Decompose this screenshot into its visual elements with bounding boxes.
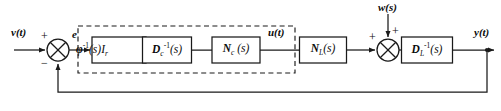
feedback-tap-dot — [485, 48, 489, 52]
sign-sum-error-minus: − — [41, 57, 48, 69]
block-label-dl-inv: DL-1(s) — [412, 42, 443, 58]
signal-label-input: v(t) — [11, 27, 26, 38]
block-label-nl: NL(s) — [311, 43, 336, 57]
block-label-phi-inv: φ-1(s)Ir — [76, 42, 108, 58]
sign-sum-disturb-plus-top: + — [392, 25, 399, 37]
signal-label-control: u(t) — [268, 27, 285, 38]
block-diagram: v(t) e u(t) w(s) y(t) + − + + φ-1(s)Ir D… — [0, 0, 501, 111]
sign-sum-disturb-plus-left: + — [369, 31, 376, 43]
signal-label-error: e — [72, 29, 77, 40]
block-label-dc-inv: Dc-1(s) — [152, 42, 182, 58]
signal-label-disturbance: w(s) — [378, 2, 397, 13]
sign-sum-error-plus: + — [41, 30, 48, 42]
signal-label-output: y(t) — [474, 27, 489, 38]
block-label-nc: Nc (s) — [223, 43, 250, 57]
